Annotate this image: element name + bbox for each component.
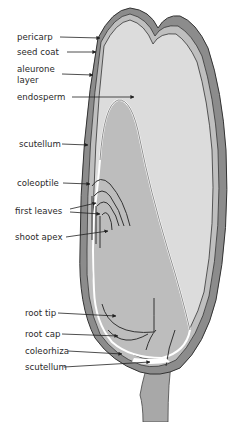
label-coleoptile: coleoptile [17,178,59,188]
label-seed-coat: seed coat [17,47,59,57]
label-root-tip: root tip [25,308,56,318]
label-first-leaves: first leaves [15,206,63,216]
label-endosperm: endosperm [17,92,65,102]
seed-diagram: pericarp seed coat aleurone layer endosp… [0,0,239,422]
label-scutellum-bottom: scutellum [25,362,67,372]
label-aleurone: aleurone [17,64,55,74]
label-aleurone-layer: layer [17,75,39,85]
label-shoot-apex: shoot apex [15,232,62,242]
label-root-cap: root cap [25,329,60,339]
label-coleorhiza: coleorhiza [25,346,69,356]
label-scutellum-top: scutellum [19,139,61,149]
label-pericarp: pericarp [17,32,53,42]
